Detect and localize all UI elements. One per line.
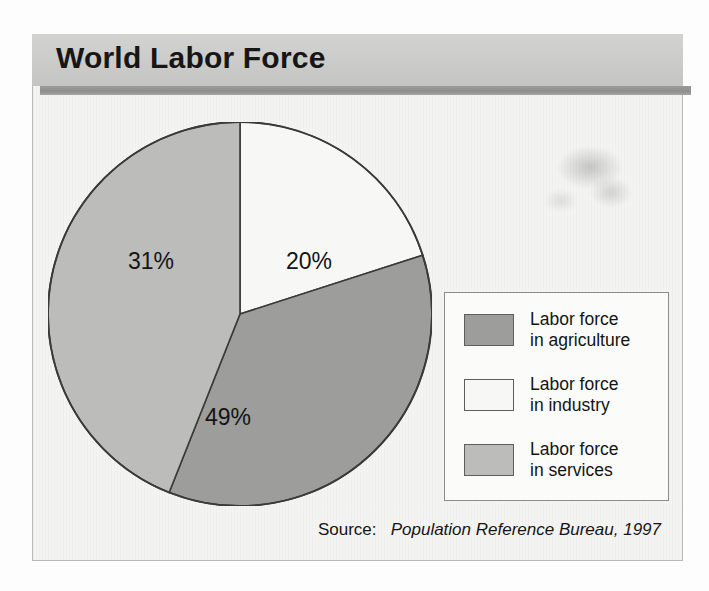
- pie-label-industry: 20%: [286, 248, 332, 275]
- pie-chart-svg: [48, 122, 432, 506]
- legend-label-services: Labor force in services: [530, 439, 619, 481]
- legend-item-services: Labor force in services: [464, 439, 619, 481]
- legend-label-agriculture: Labor force in agriculture: [530, 309, 630, 351]
- legend-item-agriculture: Labor force in agriculture: [464, 309, 630, 351]
- legend: Labor force in agriculture Labor force i…: [444, 292, 669, 501]
- pie-chart: [48, 122, 432, 506]
- page-background: World Labor Force 31% 20% 49% Labor forc…: [0, 0, 709, 591]
- legend-item-industry: Labor force in industry: [464, 374, 619, 416]
- source-label: Source:: [318, 520, 377, 539]
- page-title: World Labor Force: [56, 41, 326, 75]
- legend-swatch-agriculture: [464, 314, 514, 346]
- pie-label-services: 31%: [128, 248, 174, 275]
- title-band-shadow: [40, 86, 691, 95]
- legend-label-industry: Labor force in industry: [530, 374, 619, 416]
- source-citation: Population Reference Bureau, 1997: [391, 520, 661, 539]
- pie-label-agriculture: 49%: [205, 404, 251, 431]
- legend-swatch-services: [464, 444, 514, 476]
- source-line: Source: Population Reference Bureau, 199…: [318, 520, 661, 540]
- legend-swatch-industry: [464, 379, 514, 411]
